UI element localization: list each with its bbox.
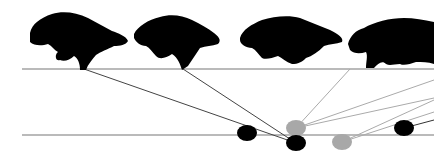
footfall-black-1 [237,125,257,141]
wolverine-frame-3 [240,16,342,64]
wolverine-frame-4 [348,18,434,68]
wolverine-frame-1 [30,12,128,70]
gait-diagram [0,0,434,157]
projection-lines [84,69,434,143]
footfall-grey-1 [286,120,306,136]
footfall-black-3 [394,120,414,136]
footfall-grey-2 [332,134,352,150]
wolverine-frame-2 [134,15,220,70]
footfall-black-2 [286,135,306,151]
